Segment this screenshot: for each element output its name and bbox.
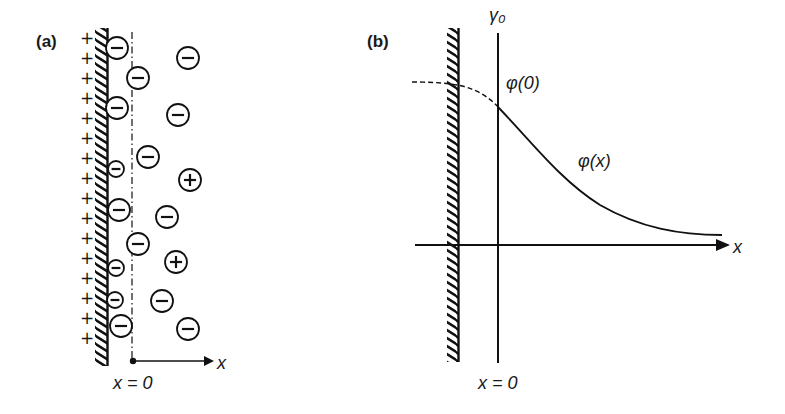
surface-plus-charge: + [80, 168, 94, 188]
ion-cloud [106, 37, 201, 340]
charged-wall-b [447, 28, 459, 362]
surface-plus-charge: + [80, 68, 94, 88]
anion [108, 161, 124, 177]
anion [156, 206, 178, 228]
panel-a: (a) ++++++++++++++++ x x = 0 [36, 28, 227, 393]
panel-a-label: (a) [36, 32, 57, 51]
anion [151, 290, 173, 312]
x-axis-label-a: x [216, 353, 227, 373]
potential-curve-label: φ(x) [578, 151, 611, 171]
surface-plus-charge: + [80, 188, 94, 208]
anion [108, 260, 124, 276]
surface-plus-charge: + [80, 228, 94, 248]
anion [177, 318, 199, 340]
surface-plus-charge: + [80, 248, 94, 268]
anion [108, 199, 130, 221]
anion [177, 47, 199, 69]
surface-plus-charge: + [80, 88, 94, 108]
gamma0-label: γ₀ [489, 5, 506, 25]
surface-plus-charge: + [80, 268, 94, 288]
origin-label-b: x = 0 [477, 373, 518, 393]
surface-plus-charge: + [80, 128, 94, 148]
potential-curve [498, 107, 722, 235]
x-axis-label-b: x [732, 237, 743, 257]
anion [127, 67, 149, 89]
surface-plus-charge: + [80, 48, 94, 68]
anion [106, 97, 128, 119]
electric-double-layer-figure: (a) ++++++++++++++++ x x = 0 (b) γ₀ [0, 0, 785, 414]
cation [179, 169, 201, 191]
origin-label-a: x = 0 [112, 373, 153, 393]
surface-plus-charge: + [80, 328, 94, 348]
x-axis-a: x [130, 353, 227, 373]
surface-potential-label: φ(0) [506, 73, 540, 93]
surface-plus-charge: + [80, 108, 94, 128]
panel-b: (b) γ₀ x φ(0) φ(x) x = 0 [367, 5, 743, 393]
surface-charges: ++++++++++++++++ [80, 28, 94, 348]
anion [106, 37, 128, 59]
anion [110, 315, 132, 337]
anion [107, 292, 123, 308]
surface-plus-charge: + [80, 308, 94, 328]
panel-b-label: (b) [367, 32, 389, 51]
surface-plus-charge: + [80, 288, 94, 308]
anion [137, 146, 159, 168]
charged-wall [95, 28, 108, 366]
anion [167, 104, 189, 126]
surface-plus-charge: + [80, 28, 94, 48]
surface-plus-charge: + [80, 148, 94, 168]
cation [165, 251, 187, 273]
anion [127, 233, 149, 255]
surface-plus-charge: + [80, 208, 94, 228]
